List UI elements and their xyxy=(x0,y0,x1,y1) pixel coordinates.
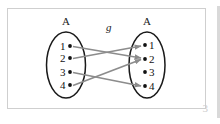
mapping-diagram-canvas xyxy=(0,0,220,124)
left-element-label-1: 1 xyxy=(60,41,66,52)
left-element-dot-3 xyxy=(68,70,72,74)
right-element-dot-1 xyxy=(143,43,147,47)
page-number: 3 xyxy=(203,103,209,114)
right-set-label: A xyxy=(143,16,151,27)
right-element-label-4: 4 xyxy=(149,81,155,92)
left-element-label-2: 2 xyxy=(60,53,66,64)
left-element-dot-4 xyxy=(68,83,72,87)
right-element-label-3: 3 xyxy=(149,67,155,78)
left-element-dot-1 xyxy=(68,44,72,48)
right-element-label-1: 1 xyxy=(149,40,155,51)
right-element-dot-4 xyxy=(143,84,147,88)
right-set-ellipse xyxy=(129,32,165,98)
left-element-label-4: 4 xyxy=(60,80,66,91)
right-element-dot-2 xyxy=(143,57,147,61)
left-element-dot-2 xyxy=(68,56,72,60)
left-set-ellipse xyxy=(47,32,86,98)
right-element-dot-3 xyxy=(143,70,147,74)
right-element-label-2: 2 xyxy=(149,54,155,65)
left-element-label-3: 3 xyxy=(60,67,66,78)
left-set-label: A xyxy=(62,16,70,27)
function-name-label: g xyxy=(106,22,112,33)
figure-root: A A g 1 2 3 4 1 2 3 4 3 xyxy=(0,0,220,124)
